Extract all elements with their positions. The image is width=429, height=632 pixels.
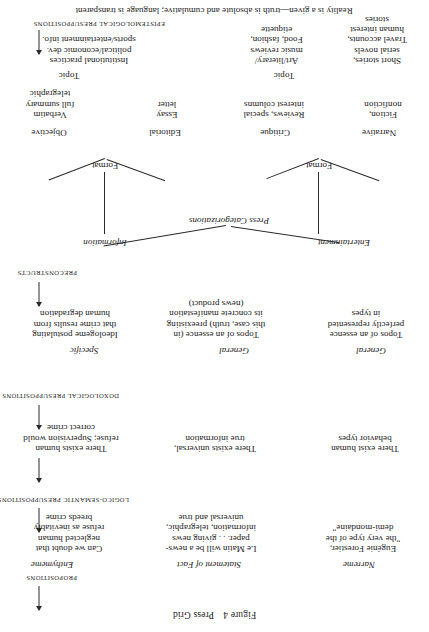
figure-caption: Figure 4Press Grid [0,610,429,620]
logico-text-2: There exist human behavior types [309,433,421,454]
connector-entertainment-to-format [318,172,319,234]
format-details-narrative: Fiction, nonfiction [343,99,423,120]
topic-content-critique: Art/literary/ music reviews Food, fashio… [224,25,329,66]
doxological-qualifier-2: General [321,346,421,356]
axis-label-doxological: DOXOLOGICAL PRESUPPOSITIONS [0,392,119,400]
proposition-text-2: Eugénie Forestier, "the very type of the… [301,523,425,554]
doxological-text-2: Topos of an essence perfectly represente… [307,309,425,340]
figure-title: Press Grid [173,610,214,620]
format-objective: Objective [4,128,94,138]
connector-information-to-format [104,172,105,234]
proposition-kind-0: Enthymeme [5,560,99,570]
format-narrative: Narrative [337,128,421,138]
proposition-text-0: Can we doubt that neglected human refuse… [5,513,133,554]
axis-label-logico-semantic: LOGICO-SEMANTIC PRESUPPOSITIONS [0,496,129,504]
axis-label-epistemological: EPISTEMOLOGICAL PRESUPPOSITIONS [5,20,165,28]
format-details-editorial: Essay letter [127,99,207,120]
branch-entertainment: Entertainment [289,238,399,248]
format-editorial: Editorial [125,128,205,138]
connector-root-to-entertainment [231,226,340,243]
format-label-information: Format [55,161,155,171]
doxological-qualifier-0: Specific [39,346,129,356]
press-categorizations-root: Press Categorizations [149,216,309,226]
format-details-objective: Verbatim full summary telegraphic [2,89,98,120]
axis-label-propositions: PROPOSITIONS [0,574,77,582]
proposition-kind-1: Statement of Fact [149,560,269,570]
doxological-text-1: Topos of an essence (in this case, truth… [143,299,289,340]
arrow-logico-upward [35,458,44,482]
axis-label-preconstructs: PRECONSTRUCTS [1,269,77,277]
format-critique: Critique [235,128,315,138]
doxological-text-0: Ideologeme postulating that crime result… [7,309,143,340]
doxological-qualifier-1: General [189,346,279,356]
topic-label-information: Topic [24,71,114,81]
logico-text-0: There exists human refuse; Supervision w… [1,423,141,454]
topic-label-entertainment: Topic [239,71,329,81]
proposition-kind-2: Narreme [309,560,409,570]
figure-number: Figure 4 [223,610,256,620]
logico-text-1: There exists universal, true information [149,433,281,454]
proposition-text-1: Le Matin will be a news- paper. . . givi… [141,513,281,554]
topic-content-information: Institutional practices political/econom… [4,35,174,66]
connector-root-to-information [104,225,226,246]
format-label-entertainment: Format [269,161,369,171]
topic-content-narrative: Short stories, serial novels Travel acco… [331,14,423,66]
arrow-enthymeme-to-propositions [35,586,44,610]
format-details-critique: Reviews, special interest columns [223,99,325,120]
press-grid-figure: EPISTEMOLOGICAL PRESUPPOSITIONS Reality … [0,0,429,632]
arrow-doxological-to-preconstructs [35,282,44,306]
